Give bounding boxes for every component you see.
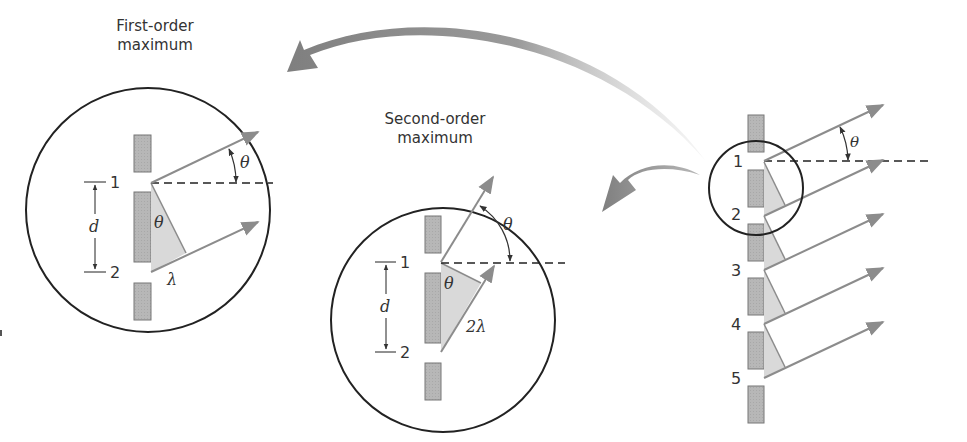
- slit-bar: [134, 135, 151, 172]
- ray-1: [441, 177, 493, 262]
- angle-label: θ: [503, 215, 513, 234]
- diffraction-grating-figure: First-order maximum Second-order maximum: [0, 0, 967, 442]
- first-order-caption-line2: maximum: [80, 36, 230, 55]
- slit-bar: [425, 216, 441, 253]
- ray-4: [764, 268, 883, 324]
- slit-bar: [425, 273, 441, 343]
- spacing-label: d: [380, 297, 390, 316]
- ray-2: [764, 160, 883, 216]
- slit-bar: [748, 115, 764, 152]
- slit-label-1: 1: [733, 152, 743, 171]
- spacing-label: d: [89, 217, 99, 236]
- slit-label-1: 1: [400, 253, 410, 272]
- slit-label-2: 2: [110, 263, 120, 282]
- path-difference-label: λ: [166, 270, 177, 289]
- slit-bar: [134, 283, 151, 320]
- slit-bar: [748, 224, 764, 261]
- angle-arc: [229, 149, 236, 182]
- slit-bar: [134, 192, 151, 262]
- slit-label-1: 1: [110, 173, 120, 192]
- second-order-caption: Second-order maximum: [355, 110, 515, 148]
- triangle-angle-label: θ: [154, 213, 164, 232]
- ray-3: [764, 214, 883, 270]
- slit-label-3: 3: [731, 261, 741, 280]
- grating-panel: θ 1 2 3 4 5: [709, 105, 930, 423]
- first-order-caption: First-order maximum: [80, 17, 230, 55]
- slit-bar: [425, 363, 441, 400]
- slit-label-2: 2: [731, 205, 741, 224]
- slit-bar: [748, 170, 764, 207]
- angle-label: θ: [240, 153, 250, 172]
- second-order-panel: θ θ 2λ d 1 2: [331, 177, 565, 432]
- path-difference-label: 2λ: [465, 317, 486, 336]
- slit-bar: [748, 278, 764, 315]
- ray-1: [764, 105, 883, 161]
- first-order-panel: θ θ λ d 1 2: [26, 88, 273, 332]
- slit-label-4: 4: [731, 315, 741, 334]
- slit-bar: [748, 332, 764, 369]
- second-order-caption-line1: Second-order: [355, 110, 515, 129]
- slit-label-5: 5: [731, 369, 741, 388]
- diagram-canvas: θ θ λ d 1 2 θ θ 2λ: [0, 0, 967, 442]
- stray-mark: [0, 330, 2, 336]
- callout-arrow-to-second-order: [602, 165, 700, 212]
- slit-label-2: 2: [400, 343, 410, 362]
- slit-bar: [748, 386, 764, 423]
- angle-label: θ: [850, 133, 859, 151]
- second-order-caption-line2: maximum: [355, 129, 515, 148]
- angle-arc: [840, 127, 848, 160]
- triangle-angle-label: θ: [444, 274, 454, 293]
- ray-5: [764, 322, 883, 378]
- first-order-caption-line1: First-order: [80, 17, 230, 36]
